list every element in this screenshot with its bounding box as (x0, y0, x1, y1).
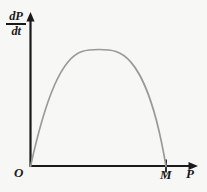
y-axis-label: dP dt (4, 10, 28, 38)
growth-rate-curve (31, 49, 167, 166)
logistic-growth-rate-figure: dP dt O M P (0, 0, 207, 192)
y-axis-label-denominator: dt (4, 25, 28, 38)
y-axis-label-numerator: dP (4, 10, 28, 23)
origin-label: O (14, 166, 23, 179)
x-axis-label: P (186, 167, 194, 180)
plot-canvas (0, 0, 207, 192)
x-tick-label-m: M (160, 168, 172, 181)
